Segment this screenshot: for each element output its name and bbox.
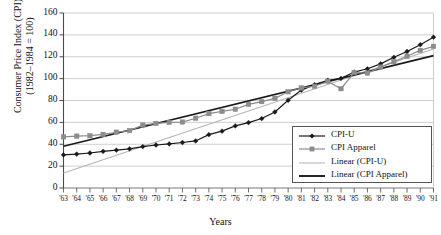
data-point-marker — [405, 49, 410, 54]
data-point-marker — [61, 152, 66, 157]
legend: CPI-UCPI ApparelLinear (CPI-U)Linear (CP… — [292, 126, 432, 183]
data-point-marker — [312, 84, 317, 89]
y-tick-label: 140 — [24, 28, 58, 38]
data-point-marker — [246, 102, 251, 107]
data-point-marker — [193, 139, 198, 144]
data-point-marker — [114, 130, 119, 135]
legend-label: Linear (CPI-U) — [331, 156, 386, 166]
data-point-marker — [167, 142, 172, 147]
data-point-marker — [246, 120, 251, 125]
legend-item: CPI Apparel — [293, 141, 431, 155]
data-point-marker — [286, 89, 291, 94]
data-point-marker — [259, 116, 264, 121]
data-point-marker — [418, 42, 423, 47]
y-tick-label: 120 — [24, 50, 58, 60]
legend-item: Linear (CPI Apparel) — [293, 168, 431, 182]
data-point-marker — [365, 71, 370, 76]
legend-item: CPI-U — [293, 127, 431, 141]
data-point-marker — [74, 152, 79, 157]
data-point-marker — [101, 149, 106, 154]
data-point-marker — [339, 86, 344, 91]
y-tick-label: 80 — [24, 94, 58, 104]
y-tick-label: 160 — [24, 7, 58, 17]
legend-label: CPI-U — [331, 129, 355, 139]
data-point-marker — [154, 121, 159, 126]
legend-swatch-icon — [297, 141, 327, 153]
legend-swatch-icon — [297, 168, 327, 180]
data-point-marker — [325, 79, 330, 84]
data-point-marker — [154, 143, 159, 148]
data-point-marker — [180, 120, 185, 125]
data-point-marker — [352, 70, 357, 75]
legend-item: Linear (CPI-U) — [293, 154, 431, 168]
data-point-marker — [431, 35, 436, 40]
legend-swatch-icon — [297, 155, 327, 167]
data-point-marker — [391, 55, 396, 60]
data-point-marker — [392, 59, 397, 64]
data-point-marker — [299, 86, 304, 91]
legend-swatch-icon — [297, 128, 327, 140]
legend-label: CPI Apparel — [331, 142, 376, 152]
data-point-marker — [259, 99, 264, 104]
data-point-marker — [207, 111, 212, 116]
data-point-marker — [167, 120, 172, 125]
cpi-line-chart: Consumer Price Index (CPI) (1982–1984 = … — [0, 0, 441, 235]
data-point-marker — [220, 129, 225, 134]
data-point-marker — [88, 133, 93, 138]
data-point-marker — [418, 48, 423, 53]
data-point-marker — [74, 134, 79, 139]
y-tick-label: 100 — [24, 72, 58, 82]
data-point-marker — [193, 116, 198, 121]
data-point-marker — [140, 123, 145, 128]
data-point-marker — [220, 109, 225, 114]
y-tick-label: 0 — [24, 182, 58, 192]
data-point-marker — [61, 135, 66, 140]
data-point-marker — [127, 128, 132, 133]
data-point-marker — [114, 148, 119, 153]
y-tick-label: 60 — [24, 116, 58, 126]
data-point-marker — [101, 132, 106, 137]
data-point-marker — [233, 107, 238, 112]
data-point-marker — [206, 132, 211, 137]
y-tick-label: 20 — [24, 160, 58, 170]
data-point-marker — [405, 54, 410, 59]
x-tick-label: '91 — [425, 194, 441, 203]
data-point-marker — [233, 123, 238, 128]
data-point-marker — [431, 44, 436, 49]
data-point-marker — [378, 65, 383, 70]
data-point-marker — [140, 144, 145, 149]
data-point-marker — [88, 151, 93, 156]
legend-label: Linear (CPI Apparel) — [331, 169, 407, 179]
data-point-marker — [273, 96, 278, 101]
x-axis-title: Years — [0, 216, 441, 227]
y-tick-label: 40 — [24, 138, 58, 148]
x-axis-ticks — [64, 188, 434, 193]
